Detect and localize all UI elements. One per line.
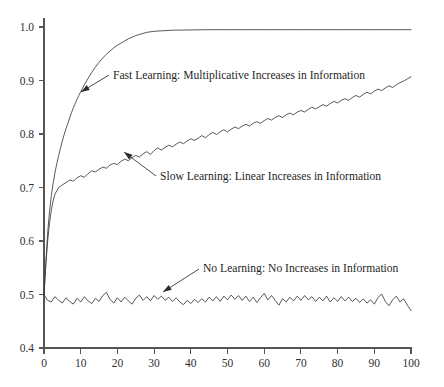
annotation-label: Slow Learning: Linear Increases in Infor… — [160, 170, 381, 183]
x-axis-tick-label: 100 — [402, 357, 420, 369]
y-axis-tick-label: 0.9 — [20, 75, 35, 87]
annotation-label: Fast Learning: Multiplicative Increases … — [113, 69, 365, 82]
y-axis-tick-label: 0.7 — [20, 182, 35, 194]
x-axis-tick-label: 70 — [295, 357, 307, 369]
y-axis-tick-label: 0.8 — [20, 128, 35, 140]
x-axis-tick-label: 20 — [112, 357, 124, 369]
fast-learning-annotation: Fast Learning: Multiplicative Increases … — [81, 69, 365, 92]
chart-figure: 0.40.50.60.70.80.91.00102030405060708090… — [0, 0, 444, 387]
y-axis-tick-label: 0.6 — [20, 235, 35, 247]
x-axis-tick-label: 80 — [332, 357, 344, 369]
y-axis-tick-label: 0.4 — [20, 342, 35, 354]
annotation-label: No Learning: No Increases in Information — [203, 262, 399, 275]
series-line-2 — [44, 292, 411, 310]
y-axis-tick-label: 1.0 — [20, 21, 35, 33]
x-axis-tick-label: 10 — [75, 357, 87, 369]
annotation-arrow-head — [163, 285, 172, 292]
y-axis-tick-label: 0.5 — [20, 289, 35, 301]
x-axis-tick-label: 40 — [185, 357, 197, 369]
slow-learning-annotation: Slow Learning: Linear Increases in Infor… — [124, 152, 381, 183]
x-axis-tick-label: 60 — [258, 357, 270, 369]
x-axis-tick-label: 50 — [222, 357, 234, 369]
annotations-layer: Fast Learning: Multiplicative Increases … — [81, 69, 399, 292]
no-learning-annotation: No Learning: No Increases in Information — [163, 262, 399, 292]
line-chart-canvas: 0.40.50.60.70.80.91.00102030405060708090… — [0, 0, 444, 387]
x-axis-tick-label: 30 — [148, 357, 160, 369]
x-axis-tick-label: 90 — [369, 357, 381, 369]
x-axis-tick-label: 0 — [41, 357, 47, 369]
